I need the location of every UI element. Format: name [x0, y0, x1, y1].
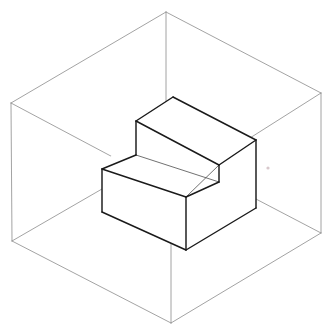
- faint-speck: [266, 166, 269, 169]
- bbox-edge-top-back-left: [11, 12, 166, 103]
- bbox-edge-top-back-right: [166, 12, 321, 93]
- bbox-edge-bottom-front-right: [171, 233, 321, 323]
- step-block: [102, 97, 256, 250]
- bbox-edge-bottom-front-left: [12, 241, 171, 323]
- isometric-figure: [0, 0, 332, 335]
- isometric-drawing-canvas: [0, 0, 332, 335]
- bbox-edge-vertical-left: [11, 103, 12, 241]
